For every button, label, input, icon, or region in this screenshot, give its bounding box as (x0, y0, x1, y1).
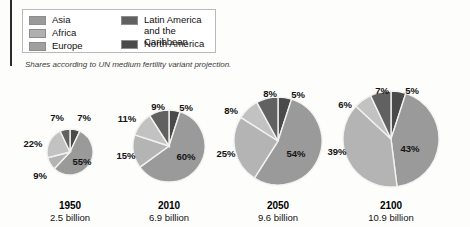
pie-population-label-1950: 2.5 billion (50, 212, 90, 223)
chart-caption: Shares according to UN medium fertility … (25, 60, 235, 70)
legend: AsiaAfricaEurope Latin America and the C… (22, 9, 216, 53)
legend-column-left: AsiaAfricaEurope (29, 14, 83, 53)
pie-percent-label-2050-asia: 54% (286, 148, 305, 159)
legend-label-africa: Africa (52, 27, 76, 38)
pie-population-label-2100: 10.9 billion (368, 212, 413, 223)
pie-2010 (131, 108, 207, 184)
pie-percent-label-2100-latin-america-and-the-caribbean: 7% (375, 85, 389, 96)
pie-year-label-1950: 1950 (59, 200, 81, 211)
pie-percent-label-2010-asia: 60% (176, 151, 195, 162)
pie-percent-label-2050-north-america: 5% (291, 89, 305, 100)
pie-percent-label-1950-europe: 22% (23, 138, 42, 149)
pie-percent-label-2050-africa: 25% (216, 148, 235, 159)
legend-label-asia: Asia (52, 14, 70, 25)
legend-swatch-europe (29, 42, 46, 51)
pie-percent-label-2010-north-america: 5% (179, 102, 193, 113)
legend-label-north-america: North America (144, 38, 204, 49)
legend-swatch-north-america (121, 40, 138, 49)
pie-population-label-2010: 6.9 billion (149, 212, 189, 223)
legend-label-europe: Europe (52, 40, 83, 51)
pie-percent-label-2100-north-america: 5% (405, 85, 419, 96)
pie-percent-label-1950-north-america: 7% (77, 112, 91, 123)
pie-percent-label-2100-europe: 6% (338, 99, 352, 110)
legend-item-africa: Africa (29, 27, 83, 39)
pie-percent-label-2050-latin-america-and-the-caribbean: 8% (263, 88, 277, 99)
pie-percent-label-1950-latin-america-and-the-caribbean: 7% (50, 112, 64, 123)
pie-percent-label-2010-latin-america-and-the-caribbean: 9% (151, 101, 165, 112)
legend-item-north-america: North America (121, 38, 215, 50)
pie-percent-label-1950-asia: 55% (72, 156, 91, 167)
pie-population-label-2050: 9.6 billion (258, 212, 298, 223)
pie-percent-label-1950-africa: 9% (33, 170, 47, 181)
legend-column-right: Latin America and the CaribbeanNorth Ame… (121, 14, 215, 51)
legend-swatch-asia (29, 16, 46, 25)
left-vertical-rule (10, 0, 12, 66)
pie-percent-label-2100-africa: 39% (327, 146, 346, 157)
legend-swatch-latin-america (121, 16, 138, 25)
pie-year-label-2010: 2010 (158, 200, 180, 211)
pie-percent-label-2010-africa: 15% (116, 150, 135, 161)
pie-1950 (45, 127, 95, 177)
pie-percent-label-2050-europe: 8% (224, 105, 238, 116)
pie-year-label-2100: 2100 (380, 200, 402, 211)
legend-item-latin-america: Latin America and the Caribbean (121, 14, 215, 37)
legend-item-asia: Asia (29, 14, 83, 26)
chart-canvas: AsiaAfricaEurope Latin America and the C… (0, 0, 470, 227)
pie-2050 (232, 95, 324, 187)
pie-percent-label-2010-europe: 11% (118, 113, 137, 124)
pie-2100 (341, 89, 441, 189)
legend-swatch-africa (29, 29, 46, 38)
legend-item-europe: Europe (29, 40, 83, 52)
pie-year-label-2050: 2050 (267, 200, 289, 211)
pie-percent-label-2100-asia: 43% (400, 143, 419, 154)
